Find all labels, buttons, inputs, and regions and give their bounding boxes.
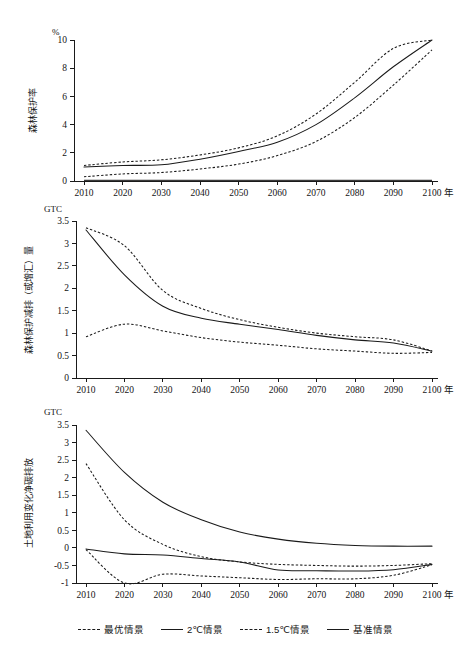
y-tick-label: 0 bbox=[62, 176, 67, 186]
x-tick-label: 2030 bbox=[153, 385, 172, 395]
chart1-svg: 0246810 20102020203020402050206020702080… bbox=[0, 0, 471, 212]
x-tick-label: 2040 bbox=[192, 385, 211, 395]
legend-item-2: 1.5℃情景 bbox=[240, 622, 310, 636]
x-tick-label: 2020 bbox=[115, 385, 134, 395]
chart-panel-forest-emission-reduction: GTC 00.511.522.533.5 2010202020302040205… bbox=[0, 200, 471, 415]
legend-swatch-dashed bbox=[78, 629, 100, 630]
chart3-y-ticks: -1-0.500.511.522.533.5 bbox=[54, 420, 76, 588]
chart-panel-forest-protection-rate: % 0246810 201020202030204020502060207020… bbox=[0, 0, 471, 212]
x-tick-label: 2040 bbox=[191, 188, 210, 198]
y-tick-label: 1.5 bbox=[57, 306, 69, 316]
x-tick-label: 2100 bbox=[423, 188, 442, 198]
legend-label: 基准情景 bbox=[353, 622, 393, 636]
series-line-最优情景 bbox=[86, 228, 432, 351]
series-line-2℃情景 bbox=[84, 40, 432, 167]
y-tick-label: 0 bbox=[64, 373, 69, 383]
x-tick-label: 2100 bbox=[423, 385, 442, 395]
chart1-series-group bbox=[84, 40, 432, 180]
y-tick-label: 8 bbox=[62, 63, 67, 73]
figure-legend: 最优情景2℃情景1.5℃情景基准情景 bbox=[0, 618, 471, 640]
y-tick-label: 6 bbox=[62, 92, 67, 102]
y-tick-label: 3.5 bbox=[57, 420, 69, 430]
chart3-x-axis-unit: 年 bbox=[444, 589, 454, 600]
x-tick-label: 2050 bbox=[230, 385, 249, 395]
y-tick-label: -1 bbox=[61, 578, 69, 588]
x-tick-label: 2090 bbox=[384, 188, 403, 198]
series-line-最优情景 bbox=[84, 40, 432, 165]
x-tick-label: 2040 bbox=[192, 590, 211, 600]
y-tick-label: 3 bbox=[64, 239, 69, 249]
legend-swatch-dashed bbox=[240, 629, 262, 630]
chart3-x-ticks: 2010202020302040205020602070208020902100 bbox=[77, 583, 442, 600]
legend-label: 2℃情景 bbox=[187, 622, 223, 636]
chart1-y-axis-label: 森林保护率 bbox=[27, 88, 38, 133]
legend-item-0: 最优情景 bbox=[78, 622, 144, 636]
y-tick-label: 4 bbox=[62, 120, 67, 130]
y-tick-label: 1 bbox=[64, 508, 69, 518]
chart2-y-ticks: 00.511.522.533.5 bbox=[57, 216, 76, 383]
y-tick-label: 2 bbox=[62, 148, 67, 158]
x-tick-label: 2010 bbox=[77, 385, 96, 395]
chart1-y-ticks: 0246810 bbox=[58, 35, 75, 186]
chart2-unit-label: GTC bbox=[44, 204, 62, 214]
x-tick-label: 2030 bbox=[152, 188, 171, 198]
legend-item-1: 2℃情景 bbox=[161, 622, 223, 636]
x-tick-label: 2020 bbox=[113, 188, 132, 198]
x-tick-label: 2030 bbox=[153, 590, 172, 600]
chart3-svg: -1-0.500.511.522.533.5 20102020203020402… bbox=[0, 403, 471, 618]
chart2-svg: 00.511.522.533.5 20102020203020402050206… bbox=[0, 200, 471, 415]
chart2-x-ticks: 2010202020302040205020602070208020902100 bbox=[77, 378, 442, 395]
x-tick-label: 2080 bbox=[346, 385, 365, 395]
series-line-基准情景 bbox=[86, 430, 432, 546]
series-line-1.5℃情景 bbox=[84, 50, 432, 177]
x-tick-label: 2050 bbox=[230, 590, 249, 600]
x-tick-label: 2060 bbox=[269, 590, 288, 600]
legend-label: 最优情景 bbox=[104, 622, 144, 636]
legend-swatch-solid bbox=[161, 629, 183, 630]
x-tick-label: 2010 bbox=[75, 188, 94, 198]
x-tick-label: 2010 bbox=[77, 590, 96, 600]
y-tick-label: 2.5 bbox=[57, 261, 69, 271]
y-tick-label: 2 bbox=[64, 473, 69, 483]
x-tick-label: 2100 bbox=[423, 590, 442, 600]
chart1-x-ticks: 2010202020302040205020602070208020902100 bbox=[75, 181, 442, 198]
x-tick-label: 2020 bbox=[115, 590, 134, 600]
x-tick-label: 2060 bbox=[269, 385, 288, 395]
x-tick-label: 2070 bbox=[307, 188, 326, 198]
chart1-unit-label: % bbox=[52, 27, 60, 37]
y-tick-label: 2.5 bbox=[57, 455, 69, 465]
chart3-series-group bbox=[86, 430, 432, 584]
series-line-最优情景 bbox=[86, 464, 432, 567]
x-tick-label: 2050 bbox=[229, 188, 248, 198]
y-tick-label: 0 bbox=[64, 543, 69, 553]
y-tick-label: 0.5 bbox=[57, 526, 69, 536]
chart1-x-axis-unit: 年 bbox=[444, 187, 454, 198]
legend-swatch-solid bbox=[327, 629, 349, 630]
chart2-series-group bbox=[86, 228, 432, 354]
x-tick-label: 2070 bbox=[307, 590, 326, 600]
x-tick-label: 2090 bbox=[384, 385, 403, 395]
legend-item-3: 基准情景 bbox=[327, 622, 393, 636]
figure-container: % 0246810 201020202030204020502060207020… bbox=[0, 0, 471, 651]
x-tick-label: 2080 bbox=[345, 188, 364, 198]
y-tick-label: -0.5 bbox=[54, 561, 69, 571]
series-line-2℃情景 bbox=[86, 230, 432, 351]
legend-label: 1.5℃情景 bbox=[266, 622, 310, 636]
chart3-unit-label: GTC bbox=[44, 407, 62, 417]
chart-panel-land-use-net-carbon: GTC -1-0.500.511.522.533.5 2010202020302… bbox=[0, 403, 471, 618]
x-tick-label: 2090 bbox=[384, 590, 403, 600]
series-line-2℃情景 bbox=[86, 549, 432, 571]
x-tick-label: 2080 bbox=[346, 590, 365, 600]
y-tick-label: 3 bbox=[64, 438, 69, 448]
y-tick-label: 3.5 bbox=[57, 216, 69, 226]
y-tick-label: 0.5 bbox=[57, 351, 69, 361]
series-line-1.5℃情景 bbox=[86, 324, 432, 353]
x-tick-label: 2070 bbox=[307, 385, 326, 395]
y-tick-label: 1 bbox=[64, 328, 69, 338]
chart2-x-axis-unit: 年 bbox=[444, 384, 454, 395]
y-tick-label: 1.5 bbox=[57, 490, 69, 500]
chart2-y-axis-label: 森林保护减排（或增汇）量 bbox=[23, 246, 34, 354]
x-tick-label: 2060 bbox=[268, 188, 287, 198]
chart3-y-axis-label: 土地利用变化净碳排放 bbox=[23, 458, 34, 548]
y-tick-label: 2 bbox=[64, 283, 69, 293]
